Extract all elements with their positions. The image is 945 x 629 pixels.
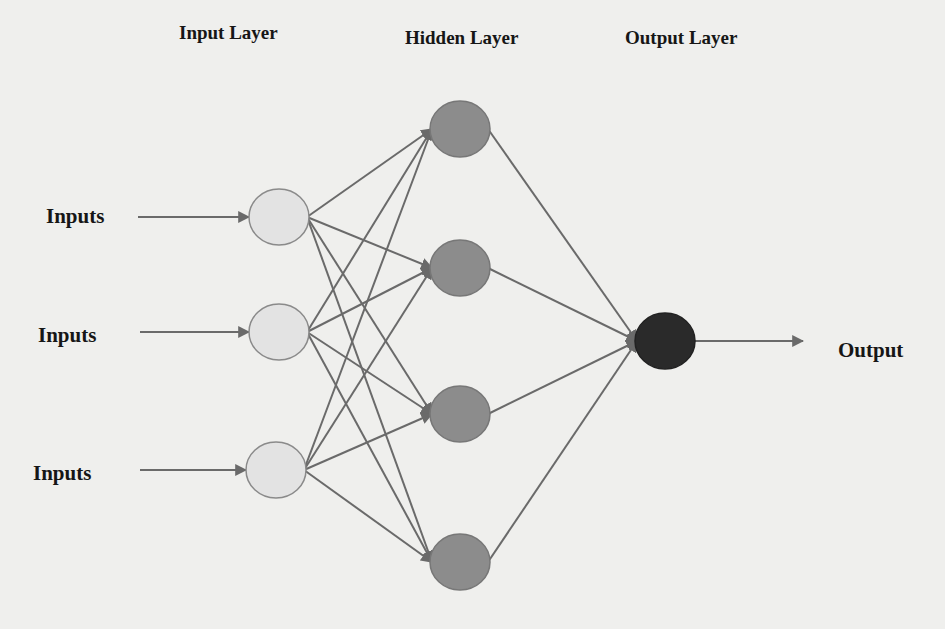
input-hidden-edge bbox=[307, 332, 432, 414]
input-hidden-edge bbox=[307, 129, 432, 332]
input-node bbox=[249, 189, 309, 245]
input-hidden-edge bbox=[304, 414, 432, 470]
hidden-node bbox=[430, 386, 490, 442]
input-hidden-edge bbox=[307, 129, 432, 217]
connection-edges bbox=[138, 129, 803, 562]
hidden-output-edge bbox=[488, 129, 637, 341]
hidden-node bbox=[430, 101, 490, 157]
hidden-output-edge bbox=[488, 268, 637, 341]
input-hidden-edge bbox=[307, 217, 432, 562]
hidden-node bbox=[430, 534, 490, 590]
input-node bbox=[249, 304, 309, 360]
input-hidden-edge bbox=[307, 217, 432, 414]
hidden-output-edge bbox=[488, 341, 637, 562]
output-node bbox=[635, 313, 695, 369]
neural-network-diagram bbox=[0, 0, 945, 629]
hidden-node bbox=[430, 240, 490, 296]
input-hidden-edge bbox=[304, 470, 432, 562]
input-hidden-edge bbox=[307, 217, 432, 268]
hidden-output-edge bbox=[488, 341, 637, 414]
input-node bbox=[246, 442, 306, 498]
